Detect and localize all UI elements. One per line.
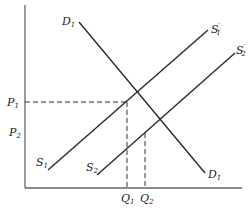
demand-curve-d1: [79, 22, 205, 173]
supply-curve-s2: [97, 53, 235, 175]
label-q1: Q1: [121, 192, 135, 206]
label-p2: P2: [8, 126, 21, 140]
label-q2: Q2: [140, 192, 154, 206]
label-d1-top: D1: [61, 15, 75, 29]
label-s2-bottom: S2: [86, 161, 99, 175]
label-s1-bottom: S1: [36, 156, 48, 170]
supply-demand-diagram: P1 P2 Q1 Q2 D1 D1 S1 S′1 S2 S′2: [0, 0, 248, 215]
label-d1-bottom: D1: [207, 168, 221, 182]
label-s2-top: S′2: [236, 43, 246, 58]
label-p1: P1: [6, 96, 19, 110]
label-s1-top: S′1: [211, 22, 221, 37]
supply-curve-s1: [48, 30, 208, 170]
